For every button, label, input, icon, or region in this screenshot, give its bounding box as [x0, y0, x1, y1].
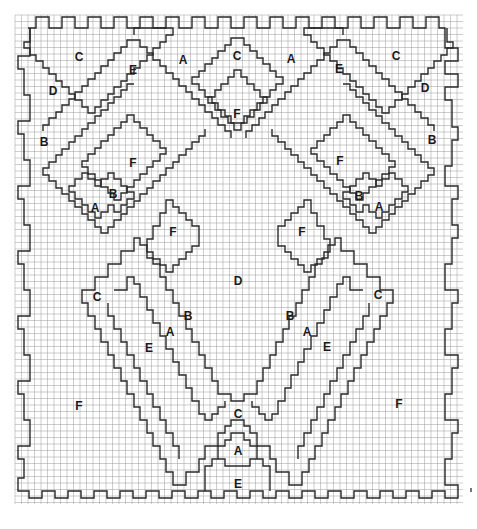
- region-label-b: B: [184, 309, 193, 323]
- region-label-e: E: [234, 477, 242, 491]
- region-label-c: C: [75, 50, 84, 64]
- region-label-c: C: [93, 290, 102, 304]
- region-label-f: F: [233, 107, 240, 121]
- region-label-f: F: [395, 397, 402, 411]
- region-label-d: D: [421, 81, 430, 95]
- f-band-left: [43, 84, 205, 233]
- bargello-chart: CACACEEDDFBBFFBBAAFFDCCBBAAEEFFCAE: [0, 0, 477, 529]
- region-label-f: F: [336, 154, 343, 168]
- region-label-f: F: [129, 156, 136, 170]
- region-label-e: E: [323, 340, 331, 354]
- region-label-a: A: [91, 201, 100, 215]
- region-label-b: B: [286, 309, 295, 323]
- region-label-c: C: [234, 407, 243, 421]
- region-label-e: E: [145, 341, 153, 355]
- region-label-f: F: [298, 225, 305, 239]
- region-label-f: F: [75, 399, 82, 413]
- region-label-f: F: [169, 225, 176, 239]
- region-label-a: A: [179, 53, 188, 67]
- region-label-b: B: [428, 133, 437, 147]
- region-label-a: A: [303, 325, 312, 339]
- region-label-c: C: [392, 49, 401, 63]
- region-label-b: B: [40, 135, 49, 149]
- region-label-a: A: [166, 325, 175, 339]
- region-label-a: A: [375, 200, 384, 214]
- region-label-e: E: [129, 63, 137, 77]
- region-label-d: D: [49, 84, 58, 98]
- region-label-d: D: [234, 274, 243, 288]
- region-label-a: A: [287, 52, 296, 66]
- region-label-e: E: [335, 62, 343, 76]
- region-label-b: B: [109, 187, 118, 201]
- region-label-a: A: [234, 444, 243, 458]
- mirror-right: [246, 28, 453, 233]
- region-label-b: B: [355, 189, 364, 203]
- region-label-c: C: [233, 49, 242, 63]
- scan-mark: [470, 488, 472, 492]
- ab-diamond-left: [69, 173, 134, 218]
- region-label-c: C: [374, 288, 383, 302]
